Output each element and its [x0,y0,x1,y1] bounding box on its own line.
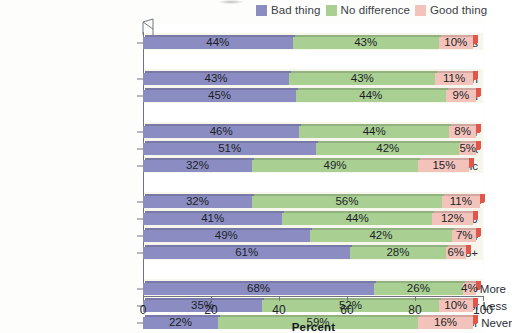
axis-break-icon [139,18,157,36]
x-axis-tick [279,296,280,301]
bar-value-label: 10% [444,300,467,312]
stacked-bar[interactable]: 45%44%9% [143,88,483,103]
bar-segment-good-thing[interactable]: 15% [418,160,469,172]
bar-value-label: 11% [450,196,472,208]
stacked-bar[interactable]: 35%52%10% [143,298,483,313]
bar-segment-bad-thing[interactable]: 51% [143,143,316,155]
chart-row: All Adults44%43%10% [0,35,485,50]
chart-row: White46%44%8% [0,124,485,139]
legend-item-good-thing: Good thing [415,4,487,16]
bar-segment-no-difference[interactable]: 44% [299,126,449,138]
bar-segment-no-difference[interactable]: 56% [252,196,442,208]
bar-segment-no-difference[interactable]: 43% [293,37,439,49]
bar-value-label: 52% [339,300,362,312]
bar-segment-good-thing[interactable]: 5% [459,143,476,155]
bar-segment-good-thing[interactable]: 6% [446,247,466,259]
chart-legend: Bad thing No difference Good thing [256,2,484,18]
bar-segment-good-thing[interactable]: 11% [442,196,479,208]
bar-end-cap [476,141,481,155]
bar-value-label: 49% [324,160,347,172]
bar-segment-good-thing[interactable]: 9% [446,90,477,102]
bar-segment-bad-thing[interactable]: 35% [143,300,262,312]
bar-segment-no-difference[interactable]: 42% [316,143,459,155]
chart-row: 30–4941%44%12% [0,211,485,226]
bar-segment-bad-thing[interactable]: 32% [143,160,252,172]
bar-segment-good-thing[interactable]: 8% [449,126,476,138]
x-axis-tick-label: 80 [408,303,421,317]
bar-value-label: 32% [186,160,209,172]
stacked-bar[interactable]: 51%42%5% [143,141,483,156]
bar-segment-bad-thing[interactable]: 68% [143,283,374,295]
bar-end-cap [476,88,481,102]
chart-row: Black51%42%5% [0,141,485,156]
group-separator [143,50,483,69]
stacked-bar[interactable]: 32%49%15% [143,158,483,173]
bar-segment-no-difference[interactable]: 49% [252,160,419,172]
stacked-bar[interactable]: 41%44%12% [143,211,483,226]
bar-value-label: 68% [247,283,270,295]
bar-segment-bad-thing[interactable]: 43% [143,73,289,85]
bar-end-cap [469,158,474,172]
bar-segment-bad-thing[interactable]: 45% [143,90,296,102]
stacked-bar[interactable]: 46%44%8% [143,124,483,139]
bar-segment-no-difference[interactable]: 28% [350,247,445,259]
bar-end-cap [473,211,478,225]
bar-segment-no-difference[interactable]: 44% [296,90,446,102]
stacked-bar[interactable]: 43%43%11% [143,71,483,86]
chart-row: 65+61%28%6% [0,245,485,260]
bar-segment-good-thing[interactable]: 10% [439,37,473,49]
group-separator [143,260,483,279]
chart-row: Hispanic32%49%15% [0,158,485,173]
bar-segment-no-difference[interactable]: 44% [282,213,432,225]
bar-value-label: 6% [447,247,464,259]
bar-segment-bad-thing[interactable]: 61% [143,247,350,259]
bar-segment-good-thing[interactable]: 10% [439,300,473,312]
bar-value-label: 45% [208,90,231,102]
x-axis-line [143,296,484,297]
legend-swatch-good-thing [415,5,426,16]
bar-value-label: 44% [359,90,382,102]
plot-area: All Adults44%43%10%Men43%43%11%Women45%4… [0,18,485,306]
bar-value-label: 9% [453,90,470,102]
bar-value-label: 8% [454,126,471,138]
x-axis-tick-label: 0 [140,303,147,317]
bar-value-label: 41% [201,213,224,225]
stacked-bar[interactable]: 61%28%6% [143,245,483,260]
bar-value-label: 42% [376,143,399,155]
bar-segment-no-difference[interactable]: 42% [310,230,453,242]
bar-segment-good-thing[interactable]: 12% [432,213,473,225]
bar-value-label: 43% [205,73,228,85]
bar-end-cap [473,315,478,329]
bar-segment-good-thing[interactable]: 7% [452,230,476,242]
bar-segment-bad-thing[interactable]: 46% [143,126,299,138]
bar-segment-bad-thing[interactable]: 44% [143,37,293,49]
bar-value-label: 16% [434,317,457,329]
bar-value-label: 61% [235,247,258,259]
bar-segment-good-thing[interactable]: 4% [463,283,477,295]
bar-segment-no-difference[interactable]: 43% [289,73,435,85]
bar-value-label: 56% [335,196,358,208]
legend-item-bad-thing: Bad thing [256,4,321,16]
bar-value-label: 49% [215,230,238,242]
legend-label-good-thing: Good thing [430,4,487,16]
bar-end-cap [473,71,478,85]
bar-segment-bad-thing[interactable]: 49% [143,230,310,242]
bar-segment-good-thing[interactable]: 11% [435,73,472,85]
stacked-bar[interactable]: 32%56%11% [143,194,483,209]
bar-value-label: 32% [186,196,209,208]
x-axis-tick [415,296,416,301]
x-axis-tick-label: 40 [272,303,285,317]
bar-segment-bad-thing[interactable]: 32% [143,196,252,208]
bar-segment-bad-thing[interactable]: 41% [143,213,282,225]
chart-row: Men43%43%11% [0,71,485,86]
bar-value-label: 11% [443,73,465,85]
bar-value-label: 22% [169,317,192,329]
bar-value-label: 12% [441,213,464,225]
stacked-bar[interactable]: 68%26%4% [143,281,483,296]
stacked-bar[interactable]: 49%42%7% [143,228,483,243]
stacked-bar[interactable]: 44%43%10% [143,35,483,50]
bar-value-label: 44% [206,37,229,49]
legend-item-no-difference: No difference [326,4,411,16]
bar-segment-no-difference[interactable]: 26% [374,283,462,295]
